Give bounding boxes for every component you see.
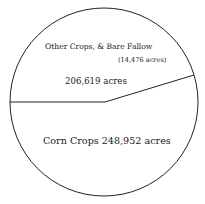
other-crops-label: Other Crops, & Bare Fallow bbox=[45, 42, 152, 51]
fallow-sublabel: (14,476 acres) bbox=[118, 56, 166, 64]
corn-crops-label: Corn Crops 248,952 acres bbox=[43, 135, 171, 146]
other-crops-value: 206,619 acres bbox=[65, 76, 127, 86]
pie-chart bbox=[0, 0, 205, 204]
